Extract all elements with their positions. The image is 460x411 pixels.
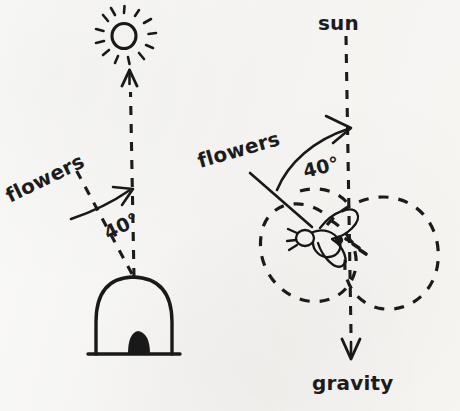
sun-direction-arrowhead (122, 70, 137, 86)
right-panel-group: sun flowers 40° gravity (195, 11, 439, 395)
waggle-dance-figure: flowers 40° (0, 0, 460, 411)
bee-icon (287, 209, 366, 266)
hive-to-sun-dashed-line (131, 92, 135, 277)
right-angle-label: 40° (301, 152, 342, 182)
left-panel-group: flowers 40° (2, 6, 180, 354)
sun-icon (96, 6, 156, 64)
sun-label: sun (318, 11, 359, 35)
gravity-arrowhead (342, 339, 360, 359)
dance-path-crossing (300, 189, 349, 205)
gravity-label: gravity (312, 371, 394, 395)
beehive-icon (88, 277, 180, 354)
dance-loop-left (260, 204, 356, 302)
left-flowers-label: flowers (2, 149, 88, 208)
diagram-canvas: flowers 40° (0, 0, 460, 411)
right-flowers-label: flowers (195, 126, 283, 172)
left-angle-label: 40° (100, 208, 142, 244)
